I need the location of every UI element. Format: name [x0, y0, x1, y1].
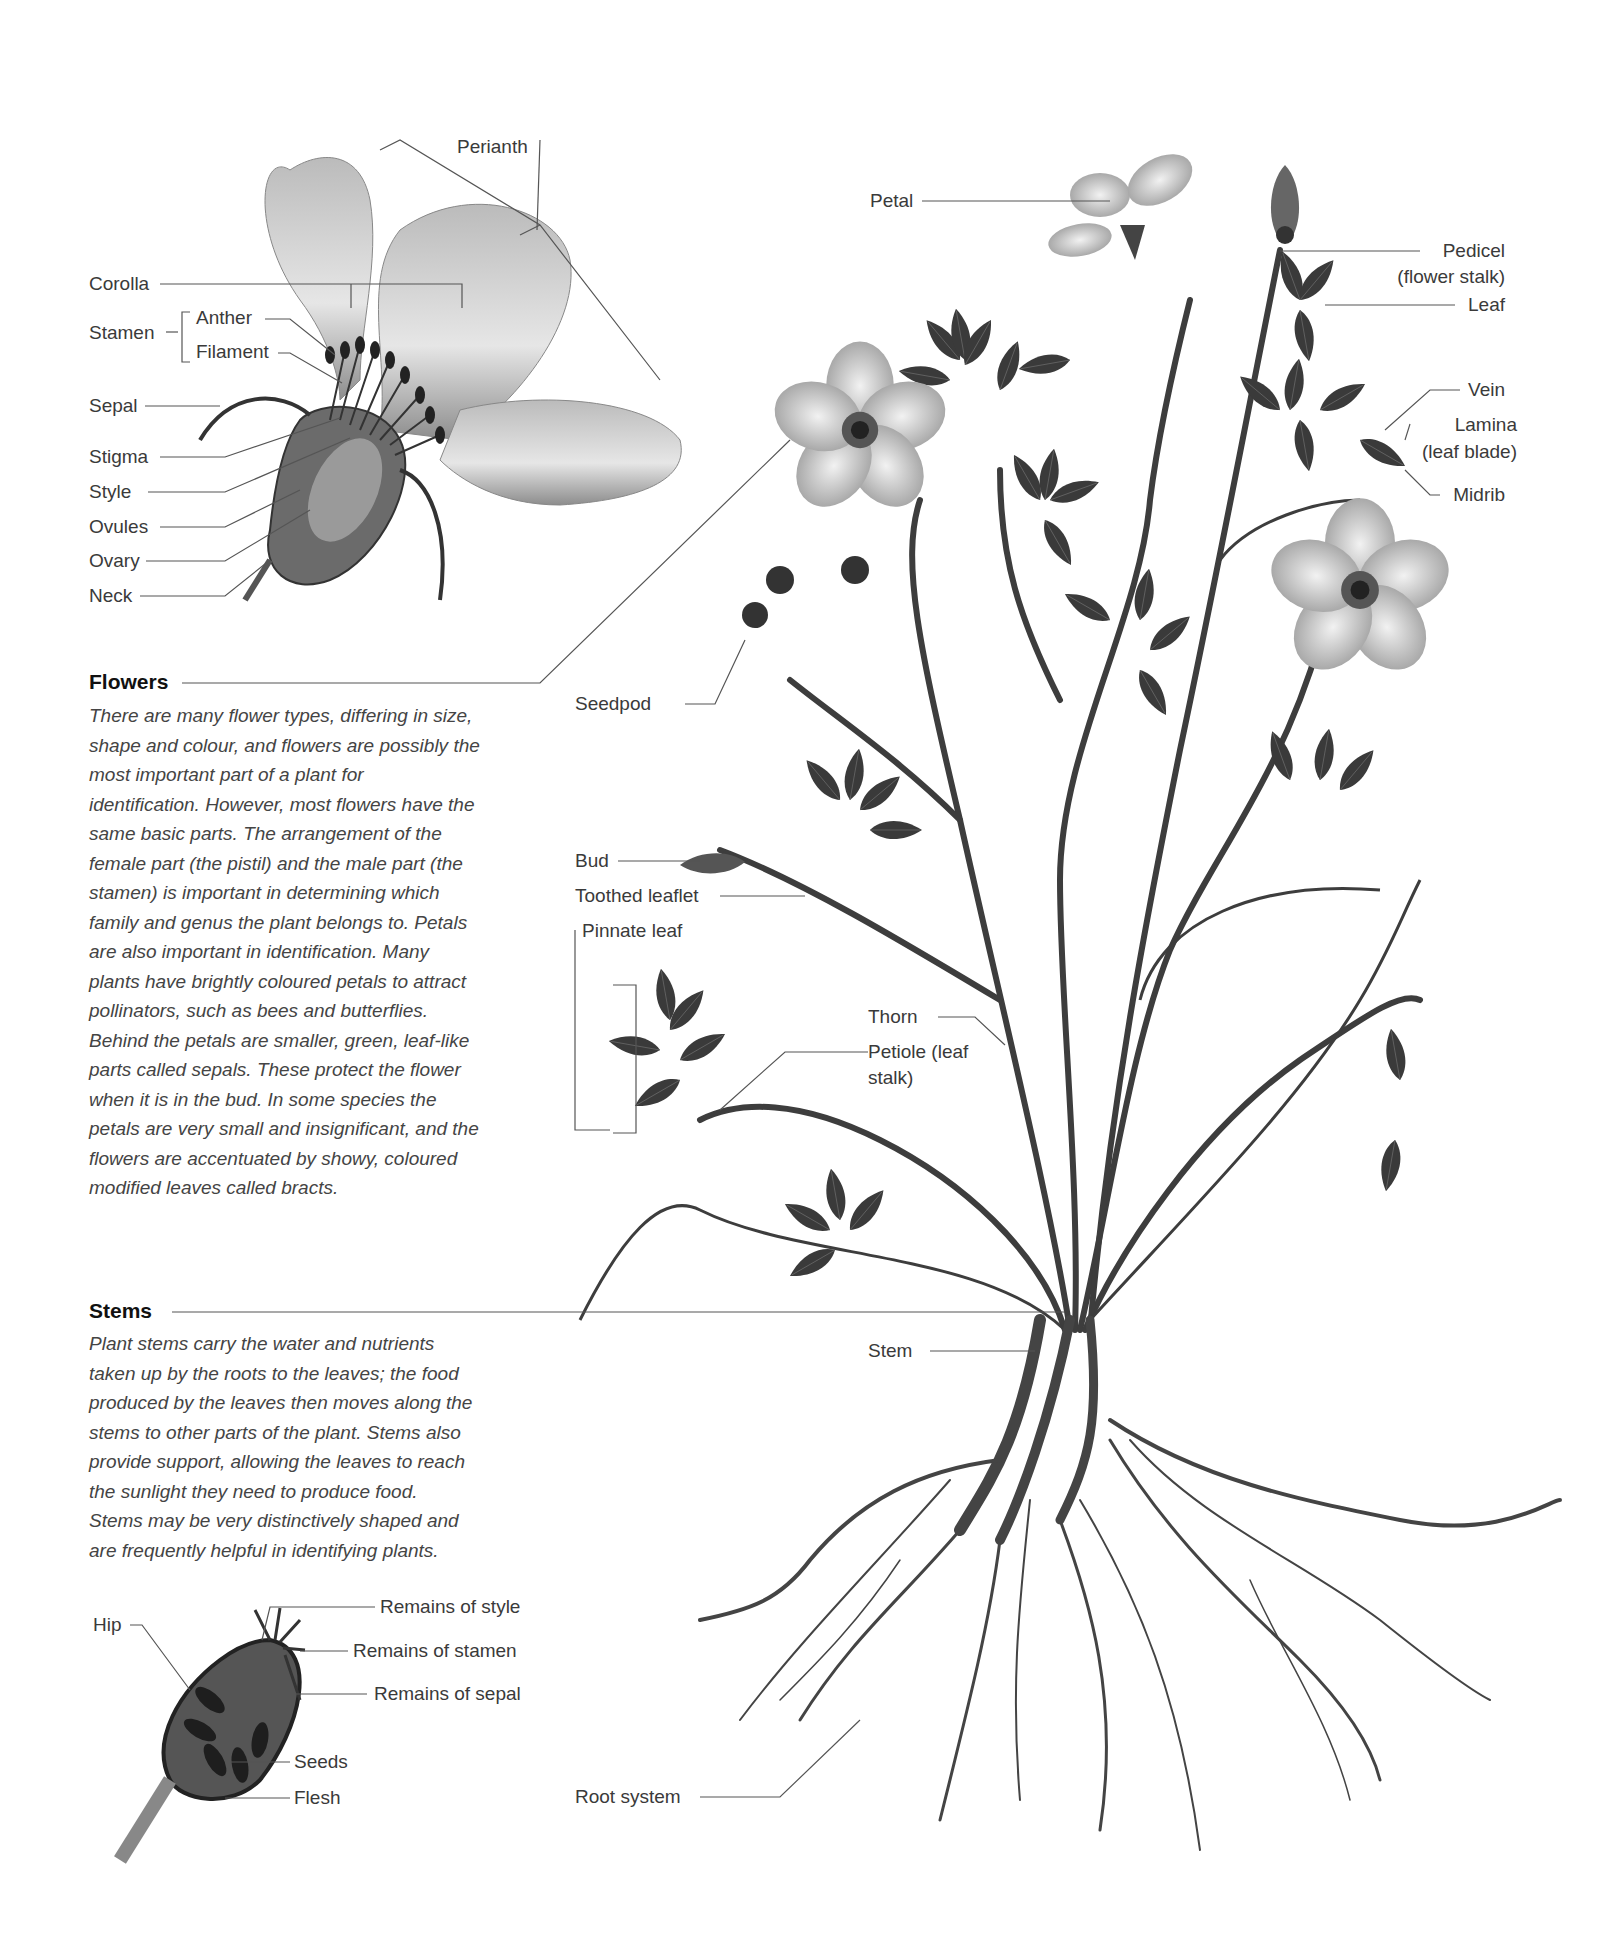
label-remains-of-stamen: Remains of stamen — [353, 1640, 517, 1662]
flowers-line: identification. However, most flowers ha… — [89, 790, 559, 820]
stems-line: Stems may be very distinctively shaped a… — [89, 1506, 559, 1536]
label-leaf: Leaf — [1460, 294, 1505, 316]
label-pedicel-sub: (flower stalk) — [1380, 266, 1505, 288]
label-seeds: Seeds — [294, 1751, 348, 1773]
bud-top — [1271, 165, 1299, 244]
open-flower-top — [1046, 143, 1202, 261]
flowers-line: modified leaves called bracts. — [89, 1173, 559, 1203]
flowers-paragraph: There are many flower types, differing i… — [89, 701, 559, 1203]
stems-line: provide support, allowing the leaves to … — [89, 1447, 559, 1477]
seedpods — [742, 556, 869, 628]
label-stamen: Stamen — [89, 322, 154, 344]
label-lamina: Lamina — [1440, 414, 1517, 436]
flower-cross-section — [200, 158, 681, 600]
label-remains-of-sepal: Remains of sepal — [374, 1683, 521, 1705]
rose-plant — [580, 143, 1560, 1850]
label-root-system: Root system — [575, 1786, 681, 1808]
label-midrib: Midrib — [1440, 484, 1505, 506]
flowers-line: most important part of a plant for — [89, 760, 559, 790]
label-remains-of-style: Remains of style — [380, 1596, 520, 1618]
label-sepal: Sepal — [89, 395, 138, 417]
flowers-line: are also important in identification. Ma… — [89, 937, 559, 967]
label-petiole-sub: stalk) — [868, 1067, 913, 1089]
label-lamina-sub: (leaf blade) — [1405, 441, 1517, 463]
label-thorn: Thorn — [868, 1006, 918, 1028]
flowers-line: family and genus the plant belongs to. P… — [89, 908, 559, 938]
flowers-line: petals are very small and insignificant,… — [89, 1114, 559, 1144]
flowers-line: shape and colour, and flowers are possib… — [89, 731, 559, 761]
label-ovules: Ovules — [89, 516, 148, 538]
label-bud: Bud — [575, 850, 609, 872]
stems-line: are frequently helpful in identifying pl… — [89, 1536, 559, 1566]
label-hip: Hip — [93, 1614, 122, 1636]
label-toothed-leaflet: Toothed leaflet — [575, 885, 699, 907]
label-stigma: Stigma — [89, 446, 148, 468]
label-corolla: Corolla — [89, 273, 149, 295]
flowers-line: female part (the pistil) and the male pa… — [89, 849, 559, 879]
label-flesh: Flesh — [294, 1787, 340, 1809]
flowers-heading: Flowers — [89, 670, 168, 694]
flowers-line: when it is in the bud. In some species t… — [89, 1085, 559, 1115]
label-filament: Filament — [196, 341, 269, 363]
stems-line: taken up by the roots to the leaves; the… — [89, 1359, 559, 1389]
label-anther: Anther — [196, 307, 252, 329]
stems-line: produced by the leaves then moves along … — [89, 1388, 559, 1418]
flowers-line: same basic parts. The arrangement of the — [89, 819, 559, 849]
label-petal: Petal — [870, 190, 913, 212]
label-pedicel: Pedicel — [1430, 240, 1505, 262]
label-style: Style — [89, 481, 131, 503]
open-flower-right — [1262, 498, 1458, 685]
label-seedpod: Seedpod — [575, 693, 651, 715]
flowers-line: parts called sepals. These protect the f… — [89, 1055, 559, 1085]
hip-cross-section — [120, 1608, 305, 1860]
leaf-cluster — [607, 248, 1409, 1284]
label-ovary: Ovary — [89, 550, 140, 572]
stems-line: stems to other parts of the plant. Stems… — [89, 1418, 559, 1448]
label-stem: Stem — [868, 1340, 912, 1362]
flowers-line: flowers are accentuated by showy, colour… — [89, 1144, 559, 1174]
label-vein: Vein — [1455, 379, 1505, 401]
stems-line: the sunlight they need to produce food. — [89, 1477, 559, 1507]
label-petiole: Petiole (leaf — [868, 1041, 968, 1063]
root-system — [700, 1320, 1560, 1850]
label-pinnate-leaf: Pinnate leaf — [582, 920, 682, 942]
flowers-line: stamen) is important in determining whic… — [89, 878, 559, 908]
label-perianth: Perianth — [457, 136, 528, 158]
stems-paragraph: Plant stems carry the water and nutrient… — [89, 1329, 559, 1565]
flowers-line: Behind the petals are smaller, green, le… — [89, 1026, 559, 1056]
flowers-line: plants have brightly coloured petals to … — [89, 967, 559, 997]
flowers-line: There are many flower types, differing i… — [89, 701, 559, 731]
label-neck: Neck — [89, 585, 132, 607]
stems-line: Plant stems carry the water and nutrient… — [89, 1329, 559, 1359]
flowers-line: pollinators, such as bees and butterflie… — [89, 996, 559, 1026]
stems-heading: Stems — [89, 1299, 152, 1323]
